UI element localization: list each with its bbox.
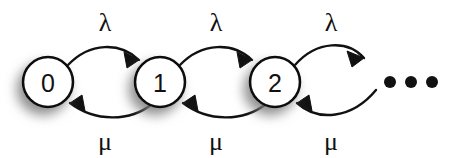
state-label: 2: [268, 69, 282, 97]
states-continue-ellipsis: [384, 76, 438, 88]
rate-label-mu-0: μ: [98, 127, 112, 156]
rate-label-lambda-2: λ: [325, 8, 338, 37]
state-label: 0: [41, 69, 55, 97]
transition-birth-1-2: [180, 47, 252, 68]
transition-birth-0-1: [68, 47, 139, 68]
ellipsis-dot-icon: [384, 76, 396, 88]
ellipsis-dot-icon: [405, 76, 417, 88]
rate-label-lambda-1: λ: [210, 8, 223, 37]
state-node-0[interactable]: 0: [23, 57, 73, 107]
markov-chain-diagram: 0 1 2 λ μ λ μ λ μ: [0, 0, 453, 158]
state-node-2[interactable]: 2: [250, 57, 300, 107]
state-node-1[interactable]: 1: [135, 57, 185, 107]
transition-death-next-2: [297, 90, 376, 115]
transition-death-2-1: [183, 95, 266, 117]
rate-label-lambda-0: λ: [99, 8, 112, 37]
transition-edges: [68, 45, 376, 117]
diagram-canvas: 0 1 2 λ μ λ μ λ μ: [0, 0, 453, 158]
rate-label-mu-1: μ: [209, 127, 223, 156]
arrowhead-icon: [347, 51, 364, 67]
state-nodes: 0 1 2: [23, 57, 300, 107]
ellipsis-dot-icon: [426, 76, 438, 88]
rate-label-mu-2: μ: [324, 127, 338, 156]
transition-birth-2-next: [295, 45, 364, 67]
state-label: 1: [153, 69, 167, 97]
